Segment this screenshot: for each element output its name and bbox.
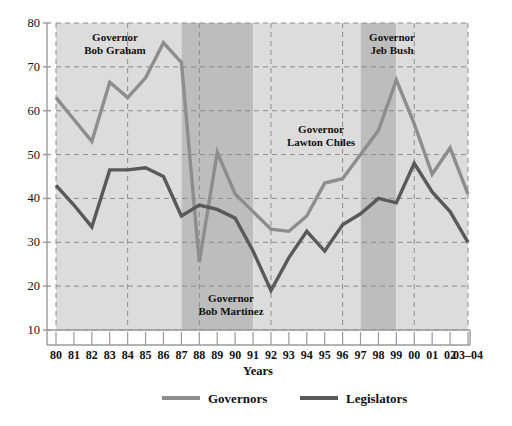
x-axis-ticks xyxy=(56,332,468,345)
x-tick-label-93: 93 xyxy=(283,348,295,362)
x-tick-label-90: 90 xyxy=(229,348,241,362)
x-tick-label-83: 83 xyxy=(104,348,116,362)
x-tick-label-82: 82 xyxy=(86,348,98,362)
y-tick-label-20: 20 xyxy=(28,279,41,293)
x-tick-label-94: 94 xyxy=(301,348,313,362)
band-label-bush-line2: Jeb Bush xyxy=(370,44,413,56)
y-tick-label-60: 60 xyxy=(28,104,41,118)
x-tick-label-95: 95 xyxy=(319,348,331,362)
x-tick-label-84: 84 xyxy=(122,348,134,362)
y-tick-label-40: 40 xyxy=(28,191,41,205)
x-tick-label-96: 96 xyxy=(337,348,349,362)
legend-label-governors: Governors xyxy=(208,391,267,406)
x-tick-label-03–04: 03–04 xyxy=(453,348,483,362)
x-tick-label-80: 80 xyxy=(50,348,62,362)
x-tick-label-88: 88 xyxy=(193,348,205,362)
x-tick-label-89: 89 xyxy=(211,348,223,362)
band-jeb-bush xyxy=(361,23,397,330)
line-chart: 80 70 60 50 40 30 20 10 8081828384858687… xyxy=(0,0,512,426)
x-tick-label-98: 98 xyxy=(372,348,384,362)
x-tick-label-87: 87 xyxy=(175,348,187,362)
band-label-graham-line2: Bob Graham xyxy=(84,44,145,56)
x-tick-label-91: 91 xyxy=(247,348,259,362)
x-axis xyxy=(47,330,470,345)
legend-label-legislators: Legislators xyxy=(346,391,407,406)
y-axis-tick-labels: 80 70 60 50 40 30 20 10 xyxy=(28,16,41,337)
band-label-chiles-line2: Lawton Chiles xyxy=(287,136,356,148)
band-label-graham-line1: Governor xyxy=(92,31,138,43)
y-tick-label-30: 30 xyxy=(28,235,41,249)
y-tick-label-70: 70 xyxy=(28,60,41,74)
y-tick-label-50: 50 xyxy=(28,148,41,162)
band-label-martinez-line2: Bob Martinez xyxy=(198,305,263,317)
x-tick-label-01: 01 xyxy=(426,348,438,362)
x-tick-label-92: 92 xyxy=(265,348,277,362)
x-tick-label-00: 00 xyxy=(408,348,420,362)
governor-term-bands xyxy=(56,23,468,330)
y-tick-label-80: 80 xyxy=(28,16,41,30)
band-label-bush-line1: Governor xyxy=(369,31,415,43)
y-axis xyxy=(43,23,51,330)
x-tick-label-99: 99 xyxy=(390,348,402,362)
x-tick-label-86: 86 xyxy=(157,348,169,362)
x-tick-label-85: 85 xyxy=(140,348,152,362)
x-axis-title: Years xyxy=(243,364,273,378)
band-label-martinez-line1: Governor xyxy=(208,292,254,304)
x-axis-tick-labels: 8081828384858687888990919293949596979899… xyxy=(50,348,483,362)
legend: Governors Legislators xyxy=(162,391,407,406)
y-tick-label-10: 10 xyxy=(28,323,41,337)
band-label-chiles-line1: Governor xyxy=(298,123,344,135)
x-tick-label-97: 97 xyxy=(355,348,367,362)
chart-container: 80 70 60 50 40 30 20 10 8081828384858687… xyxy=(0,0,512,426)
x-tick-label-81: 81 xyxy=(68,348,80,362)
